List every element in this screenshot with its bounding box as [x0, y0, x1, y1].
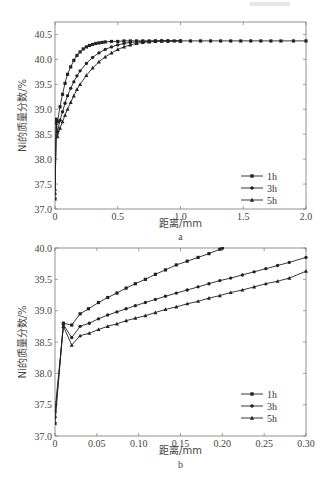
square-marker [259, 39, 262, 42]
square-marker [250, 392, 253, 395]
square-marker [175, 263, 178, 266]
square-marker [189, 39, 192, 42]
circle-marker [61, 110, 64, 113]
x-tick-label: 0.10 [130, 438, 148, 449]
square-marker [88, 44, 91, 47]
y-tick-label: 38.5 [35, 129, 53, 140]
legend-label: 5h [267, 413, 277, 424]
circle-marker [154, 298, 157, 301]
circle-marker [53, 416, 56, 419]
figure: 00.51.01.52.037.037.538.038.539.039.540.… [0, 0, 332, 488]
square-marker [79, 50, 82, 53]
circle-marker [164, 295, 167, 298]
circle-marker [134, 304, 137, 307]
subfigure-label: b [178, 459, 183, 470]
y-tick-label: 37.5 [35, 179, 53, 190]
circle-marker [175, 291, 178, 294]
legend: 1h3h5h [241, 171, 277, 206]
square-marker [199, 39, 202, 42]
square-marker [97, 301, 100, 304]
x-tick-label: 0.5 [112, 211, 125, 222]
triangle-marker [109, 51, 113, 55]
subfigure-label: a [178, 231, 183, 242]
square-marker [209, 39, 212, 42]
circle-marker [196, 285, 199, 288]
square-marker [229, 39, 232, 42]
circle-marker [122, 42, 125, 45]
square-marker [87, 307, 90, 310]
square-marker [115, 292, 118, 295]
circle-marker [85, 62, 88, 65]
circle-marker [69, 87, 72, 90]
circle-marker [218, 279, 221, 282]
square-marker [63, 82, 66, 85]
circle-marker [250, 186, 254, 190]
x-tick-label: 0.05 [88, 438, 106, 449]
square-marker [82, 47, 85, 50]
triangle-marker [69, 100, 73, 104]
circle-marker [97, 51, 100, 54]
square-marker [53, 197, 56, 200]
square-marker [207, 252, 210, 255]
square-marker [116, 40, 119, 43]
square-marker [250, 174, 253, 177]
y-tick-label: 39.0 [35, 104, 53, 115]
square-marker [221, 246, 224, 249]
square-marker [106, 296, 109, 299]
square-marker [110, 40, 113, 43]
circle-marker [252, 270, 255, 273]
square-marker [164, 268, 167, 271]
y-tick-label: 38.0 [35, 154, 53, 165]
triangle-marker [304, 269, 308, 273]
circle-marker [58, 119, 61, 122]
legend-label: 3h [267, 183, 277, 194]
circle-marker [78, 325, 81, 328]
circle-marker [110, 45, 113, 48]
circle-marker [70, 336, 73, 339]
x-tick-label: 1.5 [237, 211, 250, 222]
square-marker [61, 93, 64, 96]
circle-marker [229, 276, 232, 279]
chart-b: 00.050.100.150.200.250.3037.037.538.038.… [16, 243, 315, 471]
square-marker [79, 312, 82, 315]
square-marker [154, 273, 157, 276]
square-marker [75, 54, 78, 57]
chart-a: 00.51.01.52.037.037.538.038.539.039.540.… [16, 22, 312, 242]
x-axis-label: 距离/mm [159, 444, 202, 456]
y-tick-label: 37.5 [35, 399, 53, 410]
y-tick-label: 40.0 [35, 243, 53, 254]
square-marker [219, 39, 222, 42]
x-tick-label: 0.25 [255, 438, 273, 449]
x-tick-label: 0 [53, 211, 58, 222]
circle-marker [53, 192, 56, 195]
square-marker [85, 45, 88, 48]
circle-marker [78, 69, 81, 72]
series-line [55, 41, 181, 189]
circle-marker [66, 94, 69, 97]
square-marker [125, 287, 128, 290]
square-marker [58, 105, 61, 108]
square-marker [104, 40, 107, 43]
square-marker [292, 39, 295, 42]
y-axis-label: Ni的质量分数/% [16, 79, 28, 152]
circle-marker [104, 48, 107, 51]
square-marker [249, 39, 252, 42]
circle-marker [304, 256, 307, 259]
square-marker [304, 39, 307, 42]
square-marker [94, 42, 97, 45]
y-tick-label: 39.0 [35, 305, 53, 316]
y-tick-label: 39.5 [35, 79, 53, 90]
y-tick-label: 37.0 [35, 431, 53, 442]
circle-marker [276, 264, 279, 267]
y-tick-label: 40.5 [35, 29, 53, 40]
circle-marker [63, 102, 66, 105]
series-line [55, 41, 181, 194]
triangle-marker [63, 113, 67, 117]
y-tick-label: 38.0 [35, 368, 53, 379]
circle-marker [88, 322, 91, 325]
square-marker [91, 43, 94, 46]
square-marker [70, 323, 73, 326]
square-marker [239, 39, 242, 42]
square-marker [134, 282, 137, 285]
circle-marker [72, 80, 75, 83]
